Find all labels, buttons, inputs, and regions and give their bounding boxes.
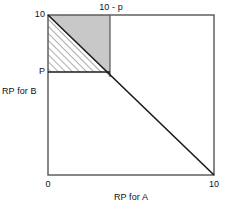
y-axis-top-label: 10 (30, 9, 45, 19)
y-axis-title: RP for B (2, 86, 46, 96)
x-axis-ten-label: 10 (206, 179, 222, 189)
x-axis-zero-label: 0 (42, 179, 54, 189)
bargaining-zone-figure (0, 0, 228, 216)
y-axis-p-label: P (31, 66, 45, 76)
figure-container: 10 P 0 10 10 - p RP for B RP for A (0, 0, 228, 216)
top-annotation: 10 - p (92, 2, 130, 12)
x-axis-title: RP for A (88, 192, 174, 202)
